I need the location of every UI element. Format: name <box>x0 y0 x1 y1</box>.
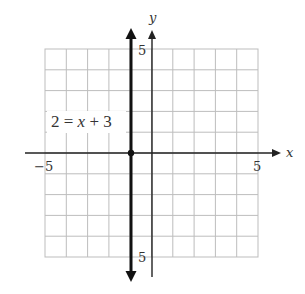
line-arrow-up-icon <box>126 28 137 39</box>
equation-variable: x <box>78 112 86 131</box>
y-axis-arrow-icon <box>148 30 156 39</box>
equation-label: 2 = x + 3 <box>47 111 126 133</box>
x-axis <box>25 149 281 157</box>
graph-svg: x y −5 5 5 5 <box>0 0 305 294</box>
y-axis-label: y <box>148 10 157 25</box>
x-min-label: −5 <box>34 159 53 174</box>
x-axis-label: x <box>286 145 294 160</box>
y-min-label: 5 <box>138 250 146 265</box>
y-max-label: 5 <box>138 43 146 58</box>
line-arrow-down-icon <box>126 271 137 282</box>
x-max-label: 5 <box>253 159 261 174</box>
coordinate-plane-figure: x y −5 5 5 5 2 = x + 3 <box>0 0 305 294</box>
vertical-line-x-neg1 <box>126 28 137 282</box>
equation-lhs: 2 = <box>51 112 78 131</box>
intercept-point <box>128 150 134 156</box>
equation-rhs: + 3 <box>85 112 112 131</box>
x-axis-arrow-icon <box>272 149 281 157</box>
